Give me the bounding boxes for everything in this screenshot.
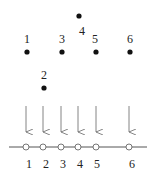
tick-label-5: 5 bbox=[94, 157, 100, 171]
projected-point-2 bbox=[40, 144, 46, 150]
point-1 bbox=[24, 49, 29, 54]
tick-label-6: 6 bbox=[129, 157, 135, 171]
point-label-3: 3 bbox=[59, 32, 65, 46]
point-6 bbox=[127, 49, 132, 54]
tick-label-2: 2 bbox=[43, 157, 49, 171]
projected-point-4 bbox=[75, 144, 81, 150]
projected-labels: 1 2 3 4 5 6 bbox=[26, 157, 135, 171]
scatter-points: 1 2 3 4 5 6 bbox=[24, 13, 133, 90]
point-4 bbox=[76, 13, 81, 18]
projection-arrows bbox=[26, 106, 129, 132]
projected-point-5 bbox=[93, 144, 99, 150]
point-5 bbox=[93, 49, 98, 54]
tick-label-1: 1 bbox=[26, 157, 32, 171]
tick-label-4: 4 bbox=[77, 157, 83, 171]
point-label-5: 5 bbox=[92, 32, 98, 46]
projected-point-3 bbox=[58, 144, 64, 150]
point-label-1: 1 bbox=[24, 32, 30, 46]
projected-point-6 bbox=[126, 144, 132, 150]
projection-diagram: 1 2 3 4 5 6 1 2 3 4 5 6 bbox=[0, 0, 165, 178]
point-label-6: 6 bbox=[127, 32, 133, 46]
point-3 bbox=[59, 49, 64, 54]
point-label-4: 4 bbox=[79, 24, 85, 38]
tick-label-3: 3 bbox=[60, 157, 66, 171]
point-2 bbox=[41, 85, 46, 90]
projected-point-1 bbox=[23, 144, 29, 150]
point-label-2: 2 bbox=[41, 68, 47, 82]
